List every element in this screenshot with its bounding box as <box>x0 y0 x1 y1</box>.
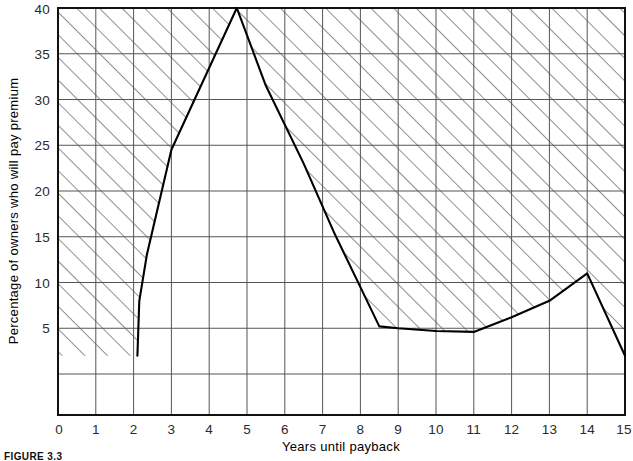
x-axis-tick-labels: 0 1 2 3 4 5 6 7 8 9 10 11 12 13 14 15 <box>55 422 632 437</box>
x-tick-15: 15 <box>616 422 631 437</box>
x-tick-12: 12 <box>504 422 519 437</box>
x-tick-7: 7 <box>319 422 327 437</box>
x-tick-3: 3 <box>168 422 176 437</box>
y-tick-20: 20 <box>35 184 50 199</box>
x-tick-10: 10 <box>428 422 443 437</box>
y-tick-5: 5 <box>42 321 50 336</box>
x-tick-9: 9 <box>394 422 402 437</box>
x-tick-0: 0 <box>55 422 63 437</box>
y-tick-35: 35 <box>35 47 50 62</box>
x-tick-11: 11 <box>467 422 481 437</box>
x-tick-14: 14 <box>579 422 595 437</box>
x-tick-4: 4 <box>205 422 213 437</box>
x-tick-13: 13 <box>542 422 557 437</box>
y-tick-25: 25 <box>35 138 50 153</box>
y-tick-15: 15 <box>35 230 50 245</box>
x-tick-5: 5 <box>243 422 251 437</box>
figure-caption: FIGURE 3.3 <box>4 451 62 461</box>
x-axis-title: Years until payback <box>282 439 400 454</box>
y-axis-title: Percentage of owners who will pay premiu… <box>6 78 21 345</box>
y-axis-tick-labels: 40 35 30 25 20 15 10 5 <box>35 2 50 336</box>
x-tick-2: 2 <box>130 422 138 437</box>
y-tick-10: 10 <box>35 276 50 291</box>
y-tick-40: 40 <box>35 2 50 17</box>
x-tick-8: 8 <box>357 422 365 437</box>
x-tick-1: 1 <box>92 422 100 437</box>
y-tick-30: 30 <box>35 93 50 108</box>
x-tick-6: 6 <box>281 422 289 437</box>
